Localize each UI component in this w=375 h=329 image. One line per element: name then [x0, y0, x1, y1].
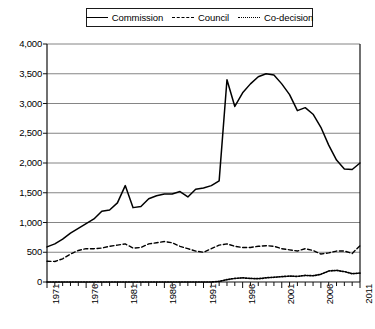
x-axis-tick-labels: 197119761981198619911996200120062011 — [47, 284, 360, 329]
y-axis-tick-label: 500 — [2, 247, 42, 257]
x-axis-tick-label: 1981 — [129, 284, 139, 304]
y-axis-tick-label: 3,000 — [2, 99, 42, 109]
legend-entry-codecision: Co-decision — [238, 13, 313, 23]
x-axis-tick-label: 1976 — [90, 284, 100, 304]
chart-figure: Commission Council Co-decision 05001,000… — [0, 0, 375, 329]
x-axis-tick-label: 1996 — [247, 284, 257, 304]
series-line-co-decision — [47, 270, 360, 282]
x-axis-tick-label: 1986 — [168, 284, 178, 304]
legend-entry-council: Council — [172, 13, 229, 23]
x-axis-tick-label: 2006 — [325, 284, 335, 304]
y-axis-tick-labels: 05001,0001,5002,0002,5003,0003,5004,000 — [0, 44, 42, 282]
legend-label-codecision: Co-decision — [264, 13, 313, 23]
legend-label-council: Council — [198, 13, 229, 23]
legend-swatch-commission — [86, 13, 108, 22]
y-axis-tick-label: 3,500 — [2, 69, 42, 79]
series-lines — [47, 74, 360, 282]
x-axis-tick-label: 1991 — [208, 284, 218, 304]
y-axis-tick-label: 0 — [2, 277, 42, 287]
y-axis-tick-label: 4,000 — [2, 39, 42, 49]
y-axis-tick-label: 2,000 — [2, 158, 42, 168]
series-line-commission — [47, 74, 360, 247]
y-axis-tick-label: 1,500 — [2, 188, 42, 198]
legend-label-commission: Commission — [112, 13, 163, 23]
y-axis-tick-label: 1,000 — [2, 218, 42, 228]
x-axis-tick-label: 1971 — [51, 284, 61, 304]
chart-plot-svg — [47, 44, 360, 282]
x-axis-tick-label: 2011 — [364, 284, 374, 304]
y-axis-tick-label: 2,500 — [2, 128, 42, 138]
series-line-council — [47, 242, 360, 262]
chart-legend: Commission Council Co-decision — [86, 8, 313, 27]
legend-swatch-council — [172, 13, 194, 22]
plot-area — [47, 44, 360, 282]
x-axis-tick-label: 2001 — [286, 284, 296, 304]
legend-swatch-codecision — [238, 13, 260, 22]
gridlines — [47, 44, 360, 252]
legend-entry-commission: Commission — [86, 13, 163, 23]
